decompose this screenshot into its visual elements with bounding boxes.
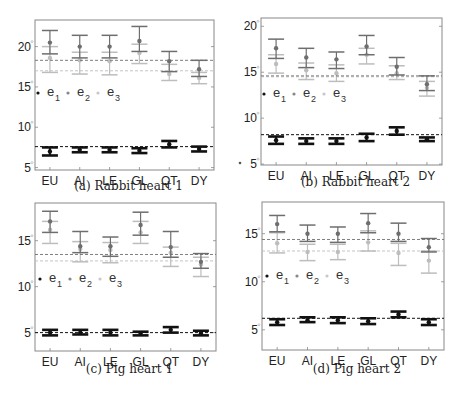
legend-subscript-e3: 3 [115, 93, 120, 103]
errorbar-e1 [193, 331, 209, 336]
errorbar-e2 [163, 231, 179, 257]
legend-marker-e1 [36, 91, 39, 94]
errorbar-e2 [360, 214, 376, 233]
y-tick-label: 20 [244, 19, 258, 33]
degree-icon [258, 228, 260, 230]
errorbar-e2 [102, 35, 118, 58]
legend-subscript-e2: 2 [87, 279, 92, 289]
errorbar-e1 [268, 137, 284, 144]
x-tick-label: EU [268, 169, 285, 183]
x-tick-label: AI [75, 355, 86, 369]
legend-subscript-e2: 2 [311, 94, 316, 104]
mean-marker [48, 330, 52, 334]
legend-subscript-e2: 2 [85, 93, 90, 103]
x-tick-label: DY [419, 169, 436, 183]
errorbar-e1 [42, 147, 58, 155]
degree-icon [31, 162, 33, 164]
errorbar-e1 [298, 138, 314, 144]
errorbar-e1 [419, 137, 435, 141]
panel-c: 51015EUAILEGLQTDYe1e2e3(c) Pig heart 1 [18, 203, 216, 376]
figure-grid: 5101520EUAILEGLQTDYe1e2e3(a) Rabbit hear… [0, 0, 462, 396]
legend-subscript-e1: 1 [281, 94, 286, 104]
errorbar-e2 [191, 60, 207, 76]
legend-label-e2: e [306, 267, 313, 282]
errorbar-e1 [359, 134, 375, 141]
degree-icon [257, 112, 259, 114]
y-tick-label: 15 [18, 80, 32, 94]
mean-marker [305, 318, 309, 322]
panel-caption: (c) Pig heart 1 [86, 362, 173, 376]
mean-marker [169, 245, 173, 249]
errorbar-e1 [161, 141, 177, 147]
legend-marker-e3 [325, 274, 328, 277]
mean-marker [425, 82, 429, 86]
mean-marker [427, 258, 431, 262]
errorbar-e2 [300, 225, 316, 241]
mean-marker [169, 328, 173, 332]
mean-marker [334, 71, 338, 75]
degree-icon [31, 235, 33, 237]
mean-marker [197, 67, 201, 71]
mean-marker [336, 250, 340, 254]
legend-label-e2: e [303, 85, 310, 100]
errorbar-e1 [269, 319, 285, 325]
errorbar-e3 [300, 244, 316, 260]
degree-icon [257, 20, 259, 22]
mean-marker [48, 56, 52, 60]
errorbar-e2 [42, 30, 58, 53]
legend-label-e2: e [79, 270, 86, 285]
mean-marker [48, 219, 52, 223]
mean-marker [199, 331, 203, 335]
y-tick-label: 10 [244, 111, 258, 125]
degree-icon [258, 324, 260, 326]
plot-frame [35, 20, 214, 170]
x-tick-label: EU [42, 355, 59, 369]
panel-caption: (d) Pig heart 2 [313, 362, 401, 376]
errorbar-e1 [300, 317, 316, 322]
errorbar-e1 [72, 147, 88, 152]
mean-marker [274, 46, 278, 50]
y-tick-label: 15 [18, 234, 32, 248]
mean-marker [304, 139, 308, 143]
legend-subscript-e1: 1 [57, 279, 62, 289]
x-tick-label: EU [269, 354, 286, 368]
legend-label-e3: e [336, 267, 343, 282]
errorbar-e2 [269, 215, 285, 231]
mean-marker [334, 139, 338, 143]
errorbar-e1 [102, 147, 118, 152]
legend-subscript-e3: 3 [341, 94, 346, 104]
errorbar-e2 [131, 26, 147, 51]
legend-label-e3: e [109, 270, 116, 285]
plot-frame [35, 203, 216, 351]
y-tick-label: 15 [245, 227, 259, 241]
y-tick-label: 20 [18, 40, 32, 54]
panel-caption: (a) Rabbit heart 1 [74, 179, 183, 193]
x-tick-label: AI [302, 354, 313, 368]
mean-marker [197, 147, 201, 151]
errorbar-e2 [328, 52, 344, 69]
y-tick-label: 5 [24, 161, 31, 175]
errorbar-e1 [163, 327, 179, 333]
legend-marker-e2 [292, 92, 295, 95]
mean-marker [108, 244, 112, 248]
mean-marker [305, 250, 309, 254]
mean-marker [108, 330, 112, 334]
legend-subscript-e3: 3 [117, 279, 122, 289]
x-tick-label: DY [191, 174, 208, 188]
legend-marker-e1 [262, 92, 265, 95]
mean-marker [396, 312, 400, 316]
errorbar-e3 [269, 233, 285, 253]
mean-marker [366, 319, 370, 323]
legend-subscript-e1: 1 [284, 276, 289, 286]
y-tick-label: 10 [18, 280, 32, 294]
errorbar-e3 [391, 243, 407, 265]
mean-marker [366, 221, 370, 225]
legend-label-e3: e [107, 84, 114, 99]
panel-b: 5101520EUAILEGLQTDYe1e2e3(b) Rabbit hear… [244, 18, 442, 189]
mean-marker [396, 251, 400, 255]
legend-subscript-e1: 1 [55, 93, 60, 103]
mean-marker [304, 55, 308, 59]
mean-marker [364, 44, 368, 48]
legend-marker-e3 [322, 92, 325, 95]
legend-marker-e1 [265, 274, 268, 277]
